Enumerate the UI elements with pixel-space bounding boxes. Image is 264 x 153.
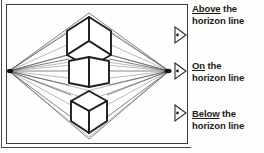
edge-markers	[175, 27, 186, 121]
triangle-right-icon-below	[175, 105, 186, 121]
triangle-right-icon-on	[175, 63, 186, 79]
caption-above-keyword: Above	[192, 3, 221, 14]
caption-column: Above the horizon line On the horizon li…	[192, 0, 264, 153]
caption-below-line2: horizon line	[192, 120, 244, 131]
left-vanishing-point	[7, 69, 13, 73]
caption-on-horizon: On the horizon line	[192, 60, 264, 83]
caption-above-line2: horizon line	[192, 15, 244, 26]
triangle-right-icon-above	[175, 27, 186, 43]
caption-below-rest: the	[219, 108, 236, 119]
caption-below-horizon: Below the horizon line	[192, 108, 264, 131]
caption-below-keyword: Below	[192, 108, 219, 119]
caption-on-rest: the	[205, 60, 222, 71]
caption-above-horizon: Above the horizon line	[192, 3, 264, 26]
right-vanishing-point	[165, 69, 172, 73]
caption-on-line2: horizon line	[192, 72, 244, 83]
caption-above-rest: the	[221, 3, 238, 14]
caption-on-keyword: On	[192, 60, 205, 71]
perspective-drawing	[7, 5, 188, 144]
perspective-diagram-figure: Above the horizon line On the horizon li…	[0, 0, 264, 153]
diagram-box	[6, 4, 188, 144]
cube-on-horizon	[69, 57, 109, 87]
